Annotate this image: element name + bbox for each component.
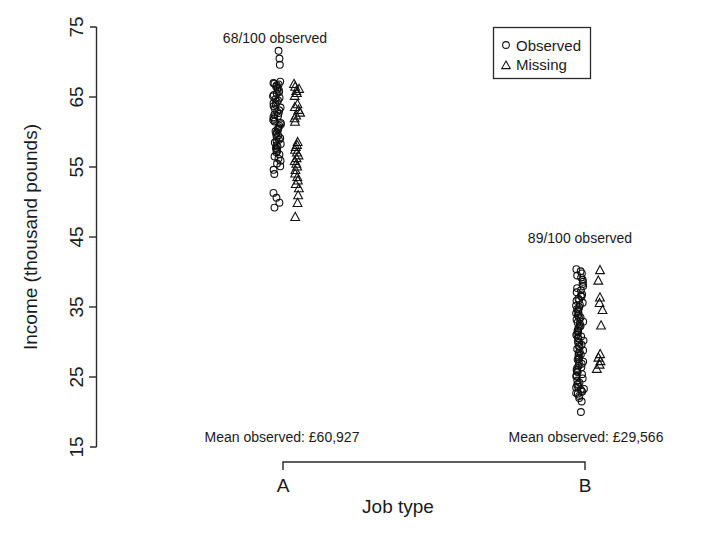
y-tick-label-55: 55 bbox=[66, 156, 87, 177]
annotation-a-mean: Mean observed: £60,927 bbox=[205, 429, 360, 445]
y-tick-label-45: 45 bbox=[66, 226, 87, 247]
y-axis-title: Income (thousand pounds) bbox=[20, 124, 41, 350]
annotation-b-mean: Mean observed: £29,566 bbox=[509, 429, 664, 445]
y-tick-label-25: 25 bbox=[66, 366, 87, 387]
annotation-b-observed-count: 89/100 observed bbox=[528, 230, 632, 246]
y-tick-label-35: 35 bbox=[66, 296, 87, 317]
plot-background bbox=[0, 0, 701, 533]
strip-plot-figure: 75 65 55 45 35 25 15 Income (thousand po… bbox=[0, 0, 701, 533]
legend-label-missing: Missing bbox=[516, 56, 567, 73]
x-tick-label-a: A bbox=[277, 475, 290, 496]
legend-label-observed: Observed bbox=[516, 37, 581, 54]
y-tick-label-75: 75 bbox=[66, 16, 87, 37]
legend: Observed Missing bbox=[494, 28, 591, 79]
x-axis-title: Job type bbox=[362, 496, 434, 517]
y-tick-label-15: 15 bbox=[66, 436, 87, 457]
annotation-a-observed-count: 68/100 observed bbox=[223, 30, 327, 46]
x-tick-label-b: B bbox=[579, 475, 592, 496]
y-tick-label-65: 65 bbox=[66, 86, 87, 107]
